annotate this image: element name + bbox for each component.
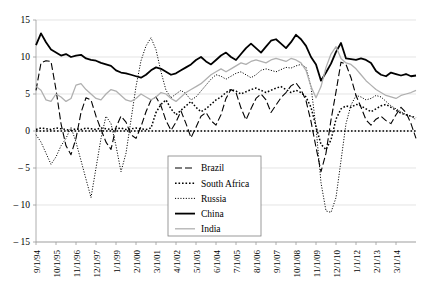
y-tick-label: 5 [25, 89, 30, 99]
y-tick-label: – 10 [12, 200, 30, 210]
legend-label-india: India [201, 224, 221, 234]
x-tick-label: 2/1/13 [372, 250, 382, 274]
x-tick-label: 11/1/09 [312, 250, 322, 278]
y-tick-label: – 5 [17, 163, 30, 173]
chart-legend: BrazilSouth AfricaRussiaChinaIndia [168, 156, 261, 236]
x-tick-label: 8/1/06 [252, 250, 262, 274]
series-line-india [36, 47, 416, 102]
x-tick-label: 7/1/05 [232, 250, 242, 274]
x-tick-label: 2/1/00 [132, 250, 142, 274]
y-tick-label: 15 [21, 15, 31, 25]
x-tick-label: 3/1/14 [392, 250, 402, 274]
x-tick-label: 12/1/97 [92, 250, 102, 278]
legend-label-south-africa: South Africa [201, 179, 250, 189]
y-tick-label: – 15 [12, 237, 30, 247]
line-chart: 151050– 5– 10– 15 9/1/9410/1/9511/1/9612… [0, 0, 422, 294]
x-tick-label: 6/1/04 [212, 250, 222, 274]
legend-label-brazil: Brazil [201, 163, 225, 173]
x-tick-label: 10/1/08 [292, 250, 302, 278]
x-tick-label: 12/1/10 [332, 250, 342, 278]
chart-container: 151050– 5– 10– 15 9/1/9410/1/9511/1/9612… [0, 0, 422, 294]
y-axis-ticks: 151050– 5– 10– 15 [12, 15, 36, 247]
x-axis-ticks: 9/1/9410/1/9511/1/9612/1/971/1/992/1/003… [32, 242, 402, 278]
x-tick-label: 9/1/07 [272, 250, 282, 274]
legend-label-china: China [201, 209, 224, 219]
legend-label-russia: Russia [201, 194, 227, 204]
y-tick-label: 10 [21, 52, 31, 62]
x-tick-label: 5/1/03 [192, 250, 202, 274]
x-tick-label: 9/1/94 [32, 250, 42, 274]
x-tick-label: 1/1/12 [352, 250, 362, 273]
x-tick-label: 10/1/95 [52, 250, 62, 278]
x-tick-label: 3/1/01 [152, 250, 162, 273]
x-tick-label: 11/1/96 [72, 250, 82, 278]
y-tick-label: 0 [25, 126, 30, 136]
series-line-brazil [36, 61, 416, 172]
x-tick-label: 4/1/02 [172, 250, 182, 273]
x-tick-label: 1/1/99 [112, 250, 122, 274]
